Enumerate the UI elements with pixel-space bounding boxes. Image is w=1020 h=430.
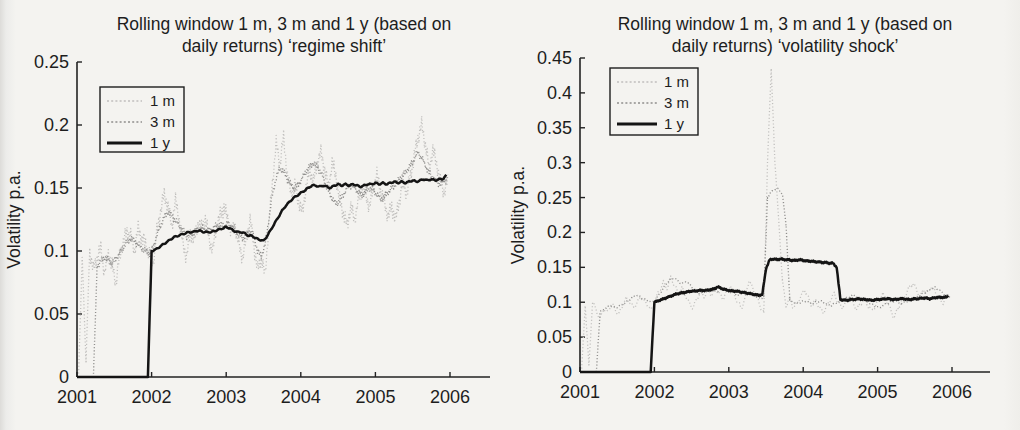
volatility-shock-chart: 20012002200320042005200600.050.10.150.20… [510,0,1020,430]
volatility-shock-panel: 20012002200320042005200600.050.10.150.20… [510,0,1020,430]
x-tick-label: 2006 [932,382,972,402]
regime-shift-chart: 20012002200320042005200600.050.10.150.20… [0,0,510,430]
x-tick-label: 2003 [709,382,749,402]
series-1y [580,258,948,372]
series-3m [596,188,949,372]
two-panel-volatility-figure: 20012002200320042005200600.050.10.150.20… [0,0,1020,430]
series-3m [93,151,447,377]
y-axis-label: Volatility p.a. [510,166,528,264]
y-tick-label: 0.1 [547,292,572,312]
y-tick-label: 0.1 [44,241,69,261]
x-tick-label: 2003 [206,387,246,407]
y-tick-label: 0 [59,367,69,387]
y-axis-label: Volatility p.a. [4,170,24,268]
y-tick-label: 0.2 [547,222,572,242]
series-1y [77,175,446,377]
x-tick-label: 2002 [132,387,172,407]
chart-title-line1: Rolling window 1 m, 3 m and 1 y (based o… [117,14,452,34]
y-tick-label: 0.15 [537,257,572,277]
legend: 1 m3 m1 y [100,87,184,152]
regime-shift-panel: 20012002200320042005200600.050.10.150.20… [0,0,510,430]
x-tick-label: 2002 [634,382,674,402]
x-tick-label: 2001 [560,382,600,402]
x-tick-label: 2005 [858,382,898,402]
legend-label-1m: 1 m [664,73,689,90]
y-tick-label: 0.2 [44,115,69,135]
y-tick-label: 0.25 [34,52,69,72]
legend-label-1y: 1 y [150,134,171,151]
chart-title-line2: daily returns) ‘regime shift’ [182,36,386,56]
y-tick-label: 0.05 [537,327,572,347]
y-tick-label: 0.25 [537,188,572,208]
y-tick-label: 0.3 [547,153,572,173]
x-tick-label: 2001 [57,387,97,407]
x-tick-label: 2006 [430,387,470,407]
y-tick-label: 0.35 [537,118,572,138]
legend-label-1y: 1 y [664,115,685,132]
series-1m [79,116,448,377]
y-tick-label: 0.15 [34,178,69,198]
scanned-figure-page: { "page": { "background": "#f4f3f0", "te… [0,0,1020,430]
y-tick-label: 0 [562,362,572,382]
legend-label-3m: 3 m [150,113,175,130]
x-tick-label: 2004 [281,387,321,407]
x-tick-label: 2004 [783,382,823,402]
legend-label-3m: 3 m [664,94,689,111]
y-tick-label: 0.4 [547,83,572,103]
x-tick-label: 2005 [355,387,395,407]
chart-title-line1: Rolling window 1 m, 3 m and 1 y (based o… [618,14,953,34]
y-tick-label: 0.05 [34,304,69,324]
legend-label-1m: 1 m [150,92,175,109]
chart-title-line2: daily returns) ‘volatility shock’ [672,36,899,56]
y-tick-label: 0.45 [537,48,572,68]
legend: 1 m3 m1 y [610,68,698,135]
